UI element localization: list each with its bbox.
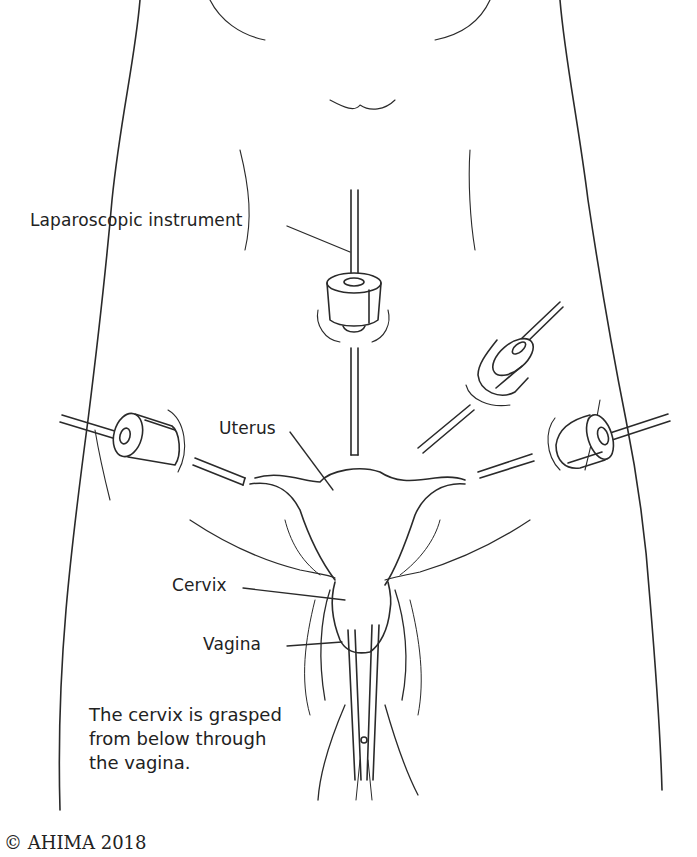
uterus-drawing (190, 469, 530, 715)
label-uterus: Uterus (219, 418, 276, 438)
caption-line-3: the vagina. (89, 751, 282, 775)
trocar-top (317, 190, 389, 455)
trocar-right (478, 411, 670, 478)
label-laparoscopic-instrument: Laparoscopic instrument (30, 210, 243, 230)
caption-line-1: The cervix is grasped (89, 703, 282, 727)
label-cervix: Cervix (172, 575, 227, 595)
caption-line-2: from below through (89, 727, 282, 751)
torso-outline (59, 0, 662, 810)
copyright-notice: © AHIMA 2018 (4, 832, 147, 853)
figure-caption: The cervix is grasped from below through… (89, 703, 282, 775)
label-vagina: Vagina (203, 634, 261, 654)
grasper-drawing (318, 625, 418, 800)
trocar-upper-right (418, 302, 563, 453)
